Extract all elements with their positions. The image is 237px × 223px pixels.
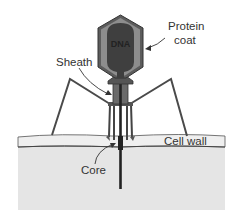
protein-coat-label-line1: Protein <box>168 20 204 32</box>
core-label: Core <box>81 164 106 176</box>
cell-wall-label: Cell wall <box>164 135 207 147</box>
protein-coat-label-line2: coat <box>174 34 197 46</box>
phage-diagram: DNA Protein coat Sheath Cell wall Core <box>0 0 237 223</box>
sheath-leader <box>79 68 108 94</box>
dna-label: DNA <box>111 39 131 49</box>
diagram-canvas: DNA Protein coat Sheath Cell wall Core <box>0 0 237 223</box>
sheath-label: Sheath <box>56 56 92 68</box>
dna-core <box>107 23 134 78</box>
